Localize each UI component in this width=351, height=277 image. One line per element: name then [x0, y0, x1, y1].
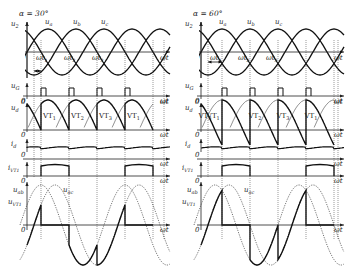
uab-label: uab: [187, 186, 198, 195]
ud-waveform: [201, 100, 334, 145]
uvt1-origin: 0: [21, 226, 26, 234]
vt-label-3: VT1: [126, 112, 140, 121]
ivt1-origin: 0: [21, 177, 26, 185]
uvt1-label: uVT1: [8, 198, 22, 207]
vt-label-2: VT3: [98, 112, 112, 121]
ivt1-label: iVT1: [182, 164, 193, 173]
alpha-title: α = 60°: [193, 9, 223, 18]
id-omega-t: ωt: [160, 160, 169, 168]
gate-pulse: [69, 88, 74, 96]
uab-label: uab: [13, 186, 24, 195]
phase-label-0: ua: [45, 18, 53, 27]
phase-label-2: uc: [101, 18, 109, 27]
gate-pulse: [278, 88, 283, 96]
phase-label-1: ub: [73, 18, 81, 27]
uvt1-waveform: [201, 190, 334, 265]
uvt1-waveform: [27, 205, 153, 265]
time-label-0: ωt1: [36, 54, 47, 63]
ud-omega-t-top: ωt: [160, 98, 169, 106]
ud-origin-top: 0: [21, 98, 26, 106]
ivt1-pulse: [222, 165, 250, 177]
phase-label-1: ub: [247, 18, 255, 27]
uac-label: uac: [244, 186, 254, 195]
phase-label-0: ua: [219, 18, 227, 27]
panel-right: α = 60°u20ωtu2uaubucωt1ωt2ωt3uG0ωtud00ωt…: [171, 9, 344, 265]
id-origin: 0: [195, 151, 200, 159]
ud-origin: 0: [21, 131, 26, 139]
uvt1-omega-t: ωt: [334, 226, 343, 234]
rectifier-waveform-figure: α = 30°u20ωtu2uaubucωt1ωt2ωt3uG0ωtud00ωt…: [0, 0, 351, 277]
id-origin: 0: [21, 151, 26, 159]
ivt1-pulse: [306, 165, 334, 177]
ivt1-pulse: [125, 165, 153, 177]
time-label-2: ωt3: [266, 54, 278, 63]
id-waveform: [27, 147, 170, 149]
time-label-1: ωt2: [238, 54, 250, 63]
panel-left: α = 30°u20ωtu2uaubucωt1ωt2ωt3uG0ωtud00ωt…: [0, 9, 170, 265]
ud-label: ud: [185, 104, 193, 113]
vt-label-0: VT1: [42, 112, 56, 121]
gate-pulse: [222, 88, 227, 96]
gate-pulse: [97, 88, 102, 96]
ud-omega-t: ωt: [160, 131, 169, 139]
uvt1-label: uVT1: [182, 198, 196, 207]
uac-label: uac: [63, 186, 73, 195]
ud-origin-top: 0: [195, 98, 200, 106]
ud-omega-t: ωt: [334, 131, 343, 139]
id-label: id: [11, 140, 16, 149]
id-waveform: [201, 147, 344, 149]
ud-omega-t-top: ωt: [334, 98, 343, 106]
ud-label: ud: [11, 104, 19, 113]
ivt1-omega-t: ωt: [334, 177, 343, 185]
id-label: id: [185, 140, 190, 149]
ivt1-omega-t: ωt: [160, 177, 169, 185]
gate-pulse: [306, 88, 311, 96]
gate-pulse: [125, 88, 130, 96]
id-omega-t: ωt: [334, 160, 343, 168]
alpha-title: α = 30°: [19, 9, 49, 18]
time-label-2: ωt3: [92, 54, 104, 63]
ivt1-label: iVT1: [8, 164, 19, 173]
uvt1-origin: 0: [195, 226, 200, 234]
uvt1-omega-t: ωt: [160, 226, 169, 234]
phase-label-2: uc: [275, 18, 283, 27]
ivt1-origin: 0: [195, 177, 200, 185]
vt-label-2: VT2: [247, 112, 261, 121]
gate-pulse: [250, 88, 255, 96]
gate-pulse: [41, 88, 46, 96]
vt-label-4: VT1: [303, 112, 317, 121]
vt-label-1: VT2: [70, 112, 84, 121]
ivt1-pulse: [41, 165, 69, 177]
ud-origin: 0: [195, 131, 200, 139]
time-label-1: ωt2: [64, 54, 76, 63]
vt-label-3: VT3: [275, 112, 289, 121]
